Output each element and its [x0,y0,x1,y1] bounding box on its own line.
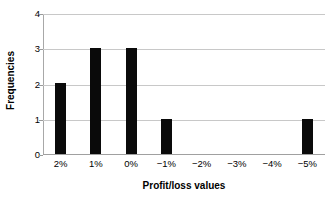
y-axis-title-text: Frequencies [5,51,16,110]
x-axis-tick-label: 2% [44,158,78,169]
y-axis-tick-label: 1 [26,115,40,125]
y-axis-tick-mark [39,155,43,156]
y-axis-tick-label: 3 [26,44,40,54]
x-axis-tick-label: −5% [290,158,324,169]
y-axis-tick-labels: 43210 [22,0,40,201]
gridline [43,49,325,50]
x-axis-tick-label: −1% [149,158,183,169]
bar [90,48,101,154]
x-axis-tick-label: −4% [255,158,289,169]
y-axis-tick-label: 0 [26,150,40,160]
histogram-figure: Frequencies 43210 2%1%0%−1%−2%−3%−4%−5% … [0,0,335,201]
bar [126,48,137,154]
y-axis-tick-label: 4 [26,9,40,19]
x-axis-line [43,154,325,155]
plot-area [43,14,325,155]
x-axis-title: Profit/loss values [43,180,325,191]
y-axis-tick-mark [39,85,43,86]
gridline [43,85,325,86]
y-axis-tick-mark [39,14,43,15]
gridline [43,14,325,15]
bar [161,119,172,154]
y-axis-title: Frequencies [0,0,20,160]
y-axis-tick-mark [39,120,43,121]
x-axis-tick-labels: 2%1%0%−1%−2%−3%−4%−5% [43,158,325,172]
x-axis-tick-label: −3% [220,158,254,169]
x-axis-tick-label: 0% [114,158,148,169]
bar [55,83,66,154]
y-axis-tick-mark [39,49,43,50]
x-axis-tick-label: 1% [79,158,113,169]
gridline [43,120,325,121]
x-axis-tick-label: −2% [185,158,219,169]
bar [302,119,313,154]
y-axis-tick-label: 2 [26,80,40,90]
